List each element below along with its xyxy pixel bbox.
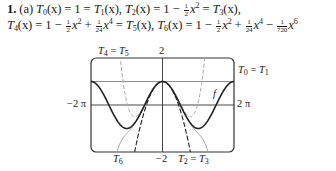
- label-t0-t1: T0 = T1: [238, 64, 269, 77]
- label-x-right: 2 π: [237, 98, 250, 109]
- label-t2-t3: T2 = T3: [178, 153, 209, 166]
- label-f: f: [213, 88, 216, 99]
- label-y-bottom: −2: [156, 153, 167, 164]
- label-x-left: −2 π: [67, 98, 86, 109]
- label-t6: T6: [113, 153, 123, 166]
- label-t4-t5: T4 = T5: [98, 45, 129, 58]
- taylor-polynomial-graph: [0, 0, 336, 171]
- label-y-top: 2: [159, 45, 164, 56]
